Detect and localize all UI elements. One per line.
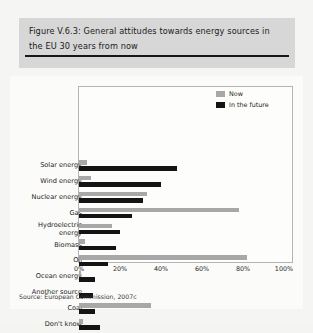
figure-title-block: Figure V.6.3: General attitudes towards … [19,18,295,68]
chart-card: Now In the future Solar energyWind energ… [10,76,303,309]
chart-row: Coal [10,301,303,317]
category-label: Don't know [0,321,82,329]
bar-in-the-future [79,230,120,235]
chart-rows: Solar energyWind energyNuclear energyGas… [10,158,303,333]
source-caption: Source: European Commission, 2007c [19,293,137,300]
bar-in-the-future [79,246,116,251]
legend-swatch-now-icon [216,91,225,96]
bar-in-the-future [79,166,177,171]
bar-now [79,208,239,213]
x-axis-tick: 100% [275,265,293,273]
category-label: Solar energy [0,162,82,170]
bar-group [79,190,284,206]
bar-now [79,255,247,260]
x-axis-tick: 60% [195,265,209,273]
bar-group [79,222,284,238]
chart-row: Wind energy [10,174,303,190]
bar-group [79,317,284,333]
page-title: Figure V.6.3: General attitudes towards … [29,24,285,54]
bar-group [79,237,284,253]
category-label: Gas [0,210,82,218]
bar-in-the-future [79,325,100,330]
chart-legend: Now In the future [216,90,269,112]
bar-now [79,192,147,197]
bar-group [79,301,284,317]
x-axis-tick: 40% [154,265,168,273]
bar-in-the-future [79,277,95,282]
chart-row: Gas [10,206,303,222]
bar-in-the-future [79,214,132,219]
bar-now [79,176,91,181]
legend-label-now: Now [229,90,243,98]
chart-row: Solar energy [10,158,303,174]
category-label: Coal [0,305,82,313]
bar-now [79,303,151,308]
x-axis-tick: 20% [113,265,127,273]
x-axis: 0%20%40%60%80%100% [78,265,293,277]
bar-in-the-future [79,182,161,187]
bar-group [79,206,284,222]
title-divider [25,55,289,57]
bar-in-the-future [79,309,95,314]
chart-row: Don't know [10,317,303,333]
category-label: Biomass [0,242,82,250]
bar-group [79,174,284,190]
category-label: Nuclear energy [0,194,82,202]
x-axis-tick: 0% [74,265,84,273]
category-label: Hydroelectric energy [0,222,82,237]
bar-now [79,239,85,244]
legend-swatch-future-icon [216,102,225,107]
bar-now [79,319,83,324]
legend-item-now: Now [216,90,269,98]
bar-now [79,224,112,229]
chart-row: Nuclear energy [10,190,303,206]
bar-group [79,158,284,174]
category-label: Oil [0,257,82,265]
x-axis-tick: 80% [236,265,250,273]
bar-now [79,160,87,165]
bar-in-the-future [79,198,143,203]
chart-row: Hydroelectric energy [10,222,303,238]
legend-label-in-the-future: In the future [229,101,269,109]
chart-row: Biomass [10,237,303,253]
legend-item-in-the-future: In the future [216,101,269,109]
category-label: Ocean energy [0,273,82,281]
category-label: Wind energy [0,178,82,186]
